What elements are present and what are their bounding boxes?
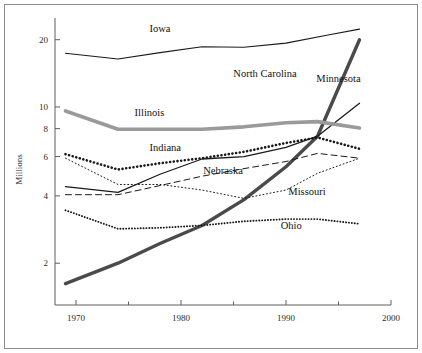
series-label-minnesota: Minnesota <box>316 73 361 84</box>
x-tick-label: 1990 <box>277 313 296 323</box>
chart-series <box>66 29 360 284</box>
series-label-indiana: Indiana <box>150 142 182 153</box>
y-tick-label: 6 <box>44 152 49 162</box>
series-label-ohio: Ohio <box>281 220 302 231</box>
series-line-illinois <box>66 111 360 129</box>
series-label-missouri: Missouri <box>288 186 325 197</box>
series-line-iowa <box>66 29 360 59</box>
series-label-nebraska: Nebraska <box>203 165 243 176</box>
y-tick-label: 2 <box>44 258 49 268</box>
series-label-north-carolina: North Carolina <box>233 68 297 79</box>
x-tick-label: 2000 <box>382 313 401 323</box>
x-tick-label: 1970 <box>67 313 86 323</box>
series-label-illinois: Illinois <box>135 107 165 118</box>
chart-figure: 246810201970198019902000Millions IowaNor… <box>0 0 422 353</box>
y-axis-title: Millions <box>14 154 24 185</box>
y-tick-label: 4 <box>44 191 49 201</box>
series-line-minnesota <box>66 103 360 192</box>
x-tick-label: 1980 <box>172 313 191 323</box>
y-tick-label: 10 <box>39 102 49 112</box>
y-tick-label: 8 <box>44 124 49 134</box>
y-tick-label: 20 <box>39 35 49 45</box>
series-label-iowa: Iowa <box>150 23 171 34</box>
line-chart: 246810201970198019902000Millions IowaNor… <box>0 0 422 353</box>
